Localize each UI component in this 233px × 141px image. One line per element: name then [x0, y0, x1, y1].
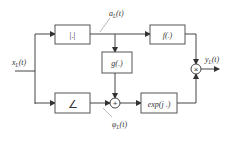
input-signal-line [15, 34, 55, 104]
g-block: g(.) [102, 52, 132, 73]
f-output-line [185, 34, 196, 64]
sum-symbol: + [113, 99, 118, 108]
phase-label: φL(t) [112, 120, 127, 130]
exp-output-line [177, 74, 196, 103]
amplitude-label: aL(t) [109, 9, 124, 19]
output-label: yL(t) [204, 55, 220, 65]
exp-block-label: exp(j .) [148, 100, 171, 109]
abs-block-label: |.| [70, 30, 76, 40]
angle-block: ∠ [55, 93, 90, 113]
abs-block: |.| [55, 25, 90, 44]
f-block: f(.) [150, 25, 185, 44]
g-block-label: g(.) [111, 59, 123, 68]
block-diagram: |.| ∠ aL(t) f(.) g(.) + φL(t) exp(j .) [0, 0, 233, 141]
phase-leader-line [103, 108, 112, 117]
f-block-label: f(.) [163, 31, 173, 40]
multiplier-junction: × [191, 64, 201, 74]
amplitude-leader-line [100, 18, 110, 32]
amplitude-line [90, 34, 150, 52]
mult-symbol: × [194, 65, 199, 74]
sum-junction: + [110, 98, 120, 108]
exp-block: exp(j .) [141, 93, 177, 113]
angle-block-label: ∠ [68, 98, 78, 110]
input-label: xL(t) [11, 58, 27, 68]
